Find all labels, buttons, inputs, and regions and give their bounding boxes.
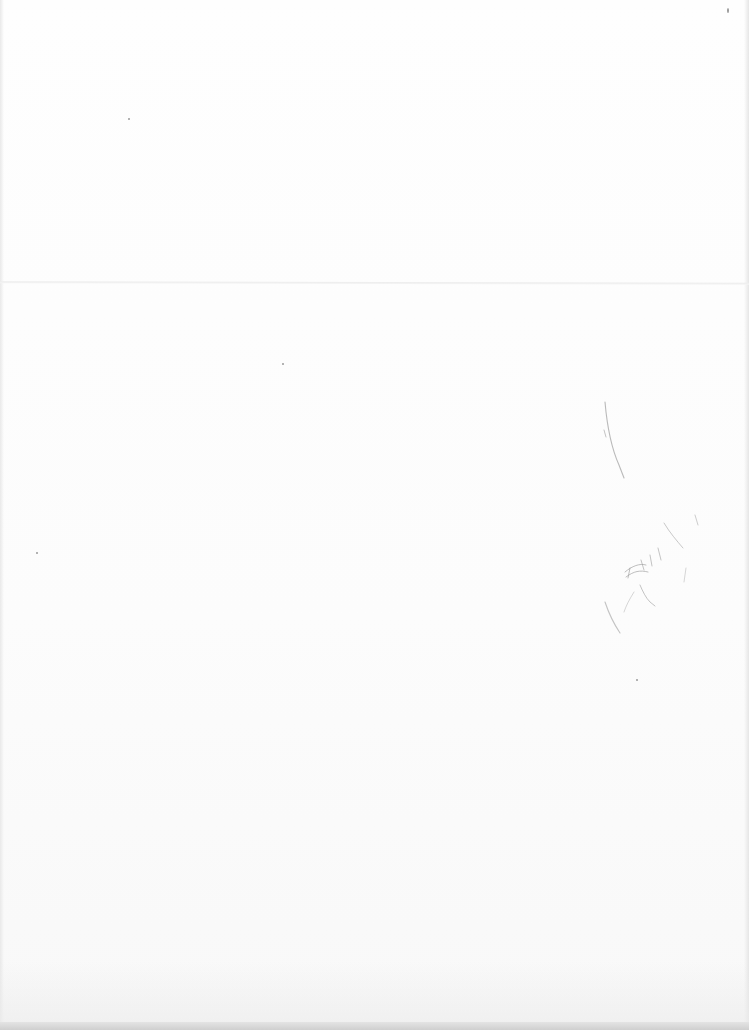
pencil-stroke — [664, 523, 683, 548]
scanned-page — [0, 0, 749, 1030]
pencil-stroke — [640, 585, 655, 606]
pencil-stroke — [624, 592, 634, 612]
pencil-stroke — [641, 548, 661, 570]
pencil-stroke — [625, 564, 648, 578]
pencil-stroke — [605, 602, 620, 633]
pencil-stroke — [684, 568, 686, 582]
pencil-stroke — [604, 430, 606, 437]
pencil-scribbles — [0, 0, 749, 1030]
pencil-stroke — [605, 402, 624, 478]
pencil-stroke — [695, 515, 698, 525]
